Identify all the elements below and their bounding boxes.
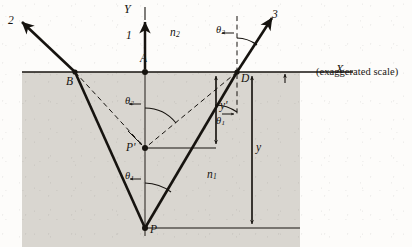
dimension-y-prime-label: y' bbox=[220, 100, 228, 112]
point-pprime-dot bbox=[142, 145, 148, 151]
medium-n2-label: n2 bbox=[170, 27, 180, 39]
y-axis-label: Y bbox=[124, 3, 131, 15]
angle-theta1-at-d-label: θ1 bbox=[216, 116, 225, 127]
ray-3-line bbox=[237, 18, 272, 72]
point-d-label: D bbox=[241, 73, 249, 85]
point-d-dot bbox=[234, 69, 239, 74]
angle-theta2-at-d-label: θ2 bbox=[216, 25, 225, 36]
ray-diagram-svg bbox=[0, 0, 412, 247]
point-p-dot bbox=[142, 225, 148, 231]
figure-caption: (exaggerated scale) bbox=[316, 66, 398, 77]
ray-2-label: 2 bbox=[8, 15, 14, 27]
point-p-label: P bbox=[150, 224, 157, 236]
point-b-dot bbox=[72, 69, 77, 74]
medium-n1-region bbox=[22, 72, 300, 247]
medium-n1-label: n1 bbox=[207, 169, 217, 181]
angle-theta2-at-pprime-label: θ2 bbox=[125, 96, 134, 107]
ray-1-label: 1 bbox=[126, 30, 132, 42]
point-a-dot bbox=[142, 69, 148, 75]
dimension-y-label: y bbox=[256, 142, 261, 154]
ray-2-line bbox=[22, 22, 75, 72]
point-p-prime-label: P' bbox=[126, 142, 135, 154]
point-b-label: B bbox=[66, 76, 73, 88]
ray-3-label: 3 bbox=[272, 9, 278, 21]
angle-theta1-at-p-label: θ1 bbox=[125, 171, 134, 182]
figure-root: Y X 1 2 3 A B D P' P n2 n1 θ2 θ1 θ2 θ1 y… bbox=[0, 0, 412, 247]
point-a-label: A bbox=[140, 53, 147, 65]
